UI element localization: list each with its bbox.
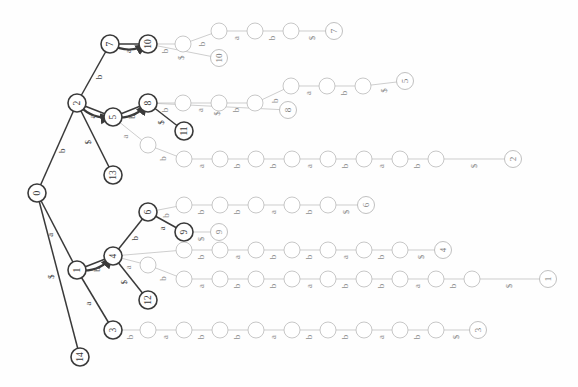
trie-node-3[interactable]: 3	[104, 321, 122, 339]
trie-node[interactable]	[176, 271, 192, 287]
trie-node[interactable]	[176, 197, 192, 213]
trie-node[interactable]	[212, 197, 228, 213]
edge-label: $	[451, 334, 461, 339]
leaf-label: 1	[543, 277, 553, 282]
trie-node-6[interactable]: 6	[139, 203, 157, 221]
edge-label: b	[196, 254, 206, 259]
trie-node[interactable]	[248, 322, 264, 338]
trie-node[interactable]	[212, 271, 228, 287]
trie-node-14[interactable]: 14	[71, 348, 89, 366]
trie-node[interactable]	[356, 271, 372, 287]
edge-label: a	[157, 226, 167, 230]
node-label: 7	[105, 41, 115, 46]
leaf-terminal[interactable]: 1	[540, 271, 557, 288]
trie-node[interactable]	[211, 95, 227, 111]
trie-node-8[interactable]: 8	[139, 94, 157, 112]
trie-node[interactable]	[320, 151, 336, 167]
trie-node[interactable]	[248, 242, 264, 258]
trie-node[interactable]	[248, 271, 264, 287]
trie-node[interactable]	[283, 23, 299, 39]
leaf-terminal[interactable]: 7	[326, 23, 343, 40]
svg-text:$: $	[176, 55, 186, 60]
trie-node[interactable]	[320, 197, 336, 213]
leaf-label: 8	[283, 107, 293, 112]
trie-node-1[interactable]: 1	[68, 261, 86, 279]
svg-text:b: b	[232, 283, 242, 288]
trie-node[interactable]	[140, 322, 156, 338]
trie-node-10[interactable]: 10	[139, 35, 157, 53]
trie-node-0[interactable]: 0	[28, 184, 46, 202]
edge	[77, 270, 113, 330]
trie-node[interactable]	[211, 23, 227, 39]
trie-node[interactable]	[176, 322, 192, 338]
diagram-canvas: ba$ba$ab$bab$abbab$$babbab$$ababbabab$bb…	[0, 0, 578, 387]
trie-node[interactable]	[284, 322, 300, 338]
trie-node[interactable]	[428, 151, 444, 167]
svg-text:b: b	[304, 334, 314, 339]
edge-label: b	[376, 254, 386, 259]
trie-node[interactable]	[248, 197, 264, 213]
trie-node-7[interactable]: 7	[101, 35, 119, 53]
trie-node[interactable]	[355, 78, 371, 94]
edge-labels-layer: ba$ba$ab$bab$abbab$$babbab$$ababbabab$bb…	[45, 35, 514, 339]
edge-label: b	[158, 276, 168, 281]
trie-node-4[interactable]: 4	[104, 247, 122, 265]
trie-node[interactable]	[392, 322, 408, 338]
trie-node-12[interactable]: 12	[139, 291, 157, 309]
trie-node[interactable]	[284, 271, 300, 287]
edge-label: b	[232, 209, 242, 214]
trie-node-9[interactable]: 9	[175, 223, 193, 241]
svg-text:b: b	[267, 35, 277, 40]
trie-node[interactable]	[356, 322, 372, 338]
trie-node[interactable]	[247, 23, 263, 39]
trie-node[interactable]	[320, 271, 336, 287]
trie-node[interactable]	[356, 242, 372, 258]
leaf-terminal[interactable]: 4	[435, 242, 452, 259]
trie-node[interactable]	[247, 95, 263, 111]
edge-label: b	[231, 107, 241, 112]
trie-node[interactable]	[284, 197, 300, 213]
trie-node[interactable]	[140, 257, 156, 273]
leaf-terminal[interactable]: 6	[358, 197, 375, 214]
leaf-label: 4	[438, 247, 448, 252]
trie-node[interactable]	[392, 151, 408, 167]
trie-node[interactable]	[320, 242, 336, 258]
svg-text:$: $	[156, 120, 166, 125]
leaf-terminal[interactable]: 2	[505, 151, 522, 168]
trie-node[interactable]	[283, 78, 299, 94]
trie-node[interactable]	[176, 151, 192, 167]
edge-label: a	[87, 115, 97, 119]
leaf-terminal[interactable]: 8	[280, 102, 297, 119]
trie-node-5[interactable]: 5	[104, 108, 122, 126]
edge-label: b	[232, 163, 242, 168]
svg-text:a: a	[157, 226, 167, 230]
trie-node-13[interactable]: 13	[104, 166, 122, 184]
svg-text:$: $	[83, 139, 93, 144]
trie-node[interactable]	[284, 242, 300, 258]
trie-node[interactable]	[464, 271, 480, 287]
leaf-terminal[interactable]: 10	[211, 50, 228, 67]
trie-node[interactable]	[212, 151, 228, 167]
trie-node[interactable]	[212, 322, 228, 338]
leaf-terminal[interactable]: 3	[470, 322, 487, 339]
trie-node[interactable]	[392, 242, 408, 258]
trie-node[interactable]	[175, 95, 191, 111]
trie-node[interactable]	[140, 137, 156, 153]
trie-node[interactable]	[176, 242, 192, 258]
trie-node[interactable]	[428, 322, 444, 338]
trie-node[interactable]	[248, 151, 264, 167]
trie-node[interactable]	[212, 242, 228, 258]
trie-node-11[interactable]: 11	[175, 122, 193, 140]
leaf-terminal[interactable]: 5	[397, 73, 414, 90]
trie-node[interactable]	[428, 271, 444, 287]
trie-node[interactable]	[392, 271, 408, 287]
trie-node[interactable]	[175, 36, 191, 52]
trie-node[interactable]	[320, 322, 336, 338]
trie-node[interactable]	[319, 78, 335, 94]
trie-node[interactable]	[356, 151, 372, 167]
trie-node-2[interactable]: 2	[68, 94, 86, 112]
leaf-label: 2	[508, 157, 518, 162]
leaf-terminal[interactable]: 9	[211, 224, 228, 241]
trie-node[interactable]	[284, 151, 300, 167]
edge-label: b	[196, 334, 206, 339]
